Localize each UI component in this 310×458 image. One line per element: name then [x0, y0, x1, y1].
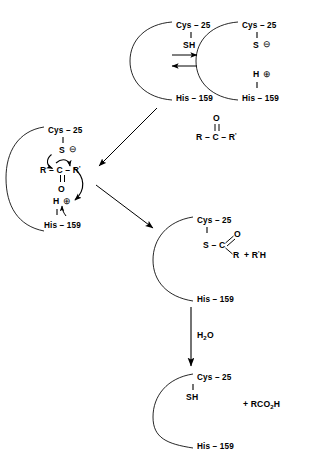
- s5-thiol-label: SH: [186, 393, 198, 402]
- bond-thioester-co-b: [227, 239, 235, 246]
- enzyme-pocket-arc-4: [153, 217, 193, 301]
- enzyme-pocket-arc-2: [196, 22, 238, 100]
- s4-carbon: C: [219, 240, 225, 250]
- mechanism-diagram: Cys – 25 SH His – 159 Cys – 25 S ⊖ H ⊕ H…: [0, 0, 310, 458]
- s4-leaving-h: H: [260, 250, 266, 260]
- s2-cys-label: Cys – 25: [242, 22, 276, 30]
- s1-cys-label: Cys – 25: [176, 22, 210, 30]
- product-subscript: 2: [270, 403, 274, 410]
- s4-r-group-label: R: [233, 251, 239, 260]
- s4-leaving-group: + R'H: [244, 251, 266, 260]
- product-suffix: H: [274, 399, 280, 409]
- substrate-binding-arrow: [99, 108, 157, 166]
- s2-hydrogen-charge: ⊕: [263, 69, 271, 78]
- s3-carbonyl-oxygen: O: [58, 185, 65, 194]
- water-label: H2O: [197, 331, 214, 340]
- s5-cys-label: Cys – 25: [197, 374, 231, 382]
- s3-substrate-prime: ': [79, 165, 81, 172]
- s4-thioester-core: S – C: [203, 241, 225, 250]
- s3-hydrogen-charge: ⊕: [63, 196, 71, 205]
- bond-thioester-cr: [226, 248, 233, 254]
- curly-arrow-his-lone-pair: [62, 206, 66, 216]
- s4-cys-label: Cys – 25: [197, 217, 231, 225]
- s3-his-label: His – 159: [44, 222, 81, 230]
- enzyme-pocket-arc-5: [153, 374, 193, 448]
- s1-thiol-label: SH: [183, 41, 195, 50]
- water-subscript: 2: [203, 334, 207, 341]
- water-suffix: O: [207, 330, 214, 340]
- s2-his-label: His – 159: [242, 95, 279, 103]
- s4-leaving-prime: ': [258, 250, 260, 257]
- s3-substrate-chain: R – C – R': [40, 166, 81, 175]
- s2-hydrogen-label: H: [253, 70, 259, 79]
- bond-thioester-co-a: [226, 236, 234, 243]
- s2-sulfur-charge: ⊖: [263, 39, 271, 48]
- s4-leaving-prefix: + R: [244, 250, 258, 260]
- acylation-arrow: [96, 185, 153, 228]
- s3-sulfur-label: S: [59, 146, 65, 155]
- s3-sulfur-charge: ⊖: [69, 144, 77, 153]
- substrate-prime: ': [235, 132, 237, 139]
- product-prefix: + RCO: [243, 399, 270, 409]
- s3-hydrogen-label: H: [53, 197, 59, 206]
- s5-his-label: His – 159: [197, 443, 234, 451]
- s4-oxygen-label: O: [234, 230, 241, 239]
- substrate-oxygen-label: O: [213, 114, 220, 123]
- s3-cys-label: Cys – 25: [48, 127, 82, 135]
- product-label: + RCO2H: [243, 400, 280, 409]
- substrate-formula: R – C – R': [196, 133, 237, 142]
- s4-his-label: His – 159: [197, 296, 234, 304]
- enzyme-pocket-arc-3: [6, 127, 44, 231]
- s2-sulfur-label: S: [253, 41, 259, 50]
- enzyme-pocket-arc-1: [130, 22, 172, 100]
- s1-his-label: His – 159: [176, 95, 213, 103]
